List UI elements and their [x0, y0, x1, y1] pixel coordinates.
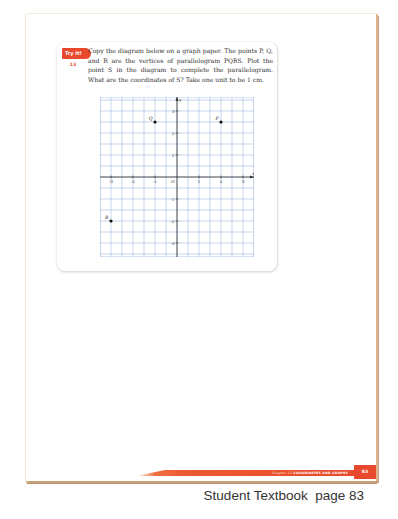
page-footer: Chapter 13 COORDINATES AND GRAPHS 83 — [136, 468, 376, 478]
svg-text:x: x — [252, 171, 254, 176]
try-it-label: Try It! — [65, 50, 82, 56]
svg-text:Q: Q — [149, 116, 153, 121]
svg-text:-2: -2 — [131, 179, 135, 184]
svg-text:-2: -2 — [170, 219, 174, 224]
try-it-card: Try It!13 Copy the diagram below on a gr… — [57, 42, 277, 271]
svg-text:2: 2 — [172, 131, 175, 136]
svg-text:3: 3 — [242, 179, 245, 184]
svg-text:1: 1 — [172, 153, 175, 158]
page-number: 83 — [354, 465, 376, 479]
svg-text:-3: -3 — [170, 241, 174, 246]
svg-text:2: 2 — [220, 179, 223, 184]
coordinate-grid: xy-3-2-1O123321-1-2-3PQR — [100, 97, 254, 257]
point-r — [109, 219, 112, 222]
svg-text:P: P — [214, 116, 219, 121]
svg-text:R: R — [104, 215, 109, 220]
coordinate-plane: xy-3-2-1O123321-1-2-3PQR — [100, 97, 254, 257]
svg-text:-1: -1 — [153, 179, 157, 184]
chapter-title: COORDINATES AND GRAPHS — [293, 471, 348, 475]
point-q — [153, 120, 156, 123]
page-caption: Student Textbook page 83 — [204, 488, 364, 503]
try-it-badge: Try It!13 — [62, 48, 91, 59]
svg-text:1: 1 — [198, 179, 201, 184]
point-p — [219, 120, 222, 123]
footer-chapter: Chapter 13 COORDINATES AND GRAPHS — [272, 470, 348, 476]
svg-text:-1: -1 — [170, 197, 174, 202]
textbook-page: Try It!13 Copy the diagram below on a gr… — [26, 14, 376, 481]
problem-text: Copy the diagram below on a graph paper.… — [88, 46, 273, 84]
svg-text:O: O — [171, 179, 175, 184]
svg-text:-3: -3 — [109, 179, 113, 184]
chapter-number: Chapter 13 — [272, 471, 292, 475]
svg-text:3: 3 — [172, 109, 175, 114]
try-it-number: 13 — [69, 61, 77, 69]
svg-text:y: y — [178, 97, 182, 102]
